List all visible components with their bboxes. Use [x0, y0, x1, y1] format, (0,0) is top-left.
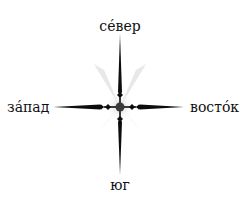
compass-diagram: сéвер юг зáпад востóк: [0, 0, 252, 203]
west-needle: [53, 105, 104, 110]
label-south: юг: [110, 178, 130, 192]
label-north: сéвер: [99, 19, 140, 33]
label-west: зáпад: [7, 100, 49, 114]
south-needle: [118, 118, 122, 175]
compass-hub: [116, 103, 125, 112]
label-east: востóк: [190, 100, 239, 114]
east-needle: [136, 105, 184, 110]
north-needle: [118, 34, 122, 96]
